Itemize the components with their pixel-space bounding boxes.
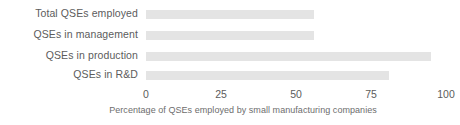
category-label: Total QSEs employed — [0, 8, 138, 19]
x-tick-label: 25 — [215, 88, 227, 100]
plot-area — [146, 0, 446, 90]
x-tick-label: 50 — [290, 88, 302, 100]
x-axis-title: Percentage of QSEs employed by small man… — [0, 105, 460, 116]
category-label: QSEs in R&D — [0, 69, 138, 80]
category-label: QSEs in management — [0, 29, 138, 40]
bar-row — [146, 71, 389, 80]
x-tick-label: 75 — [365, 88, 377, 100]
x-tick-label: 100 — [437, 88, 455, 100]
bar — [146, 10, 314, 19]
bar — [146, 52, 431, 61]
x-tick-label: 0 — [143, 88, 149, 100]
category-axis-labels: Total QSEs employedQSEs in managementQSE… — [0, 0, 138, 90]
value-axis-ticks: 0255075100 — [0, 88, 460, 102]
bar-row — [146, 31, 314, 40]
bar-chart: Total QSEs employedQSEs in managementQSE… — [0, 0, 460, 125]
bar-row — [146, 10, 314, 19]
bar — [146, 31, 314, 40]
bar — [146, 71, 389, 80]
category-label: QSEs in production — [0, 50, 138, 61]
bar-row — [146, 52, 431, 61]
x-axis-title-text: Percentage of QSEs employed by small man… — [83, 105, 377, 116]
